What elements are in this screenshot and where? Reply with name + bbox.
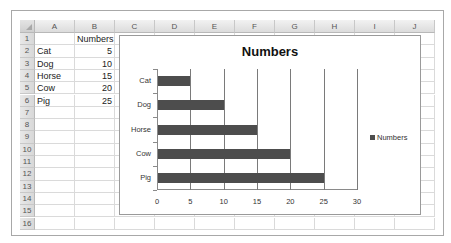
bar-cow[interactable] [158, 149, 290, 159]
row-header-2[interactable]: 2 [20, 45, 35, 57]
x-tick-label: 10 [214, 197, 234, 206]
y-tick [153, 142, 157, 143]
cell-b2[interactable]: 5 [75, 45, 115, 57]
cell-b14[interactable] [75, 193, 115, 205]
y-tick [153, 93, 157, 94]
bar-pig[interactable] [158, 173, 324, 183]
x-tick-label: 0 [147, 197, 167, 206]
row-header-14[interactable]: 14 [20, 193, 35, 205]
cell-b13[interactable] [75, 181, 115, 193]
bar-cat[interactable] [158, 76, 190, 86]
cell-b11[interactable] [75, 156, 115, 168]
y-tick [153, 69, 157, 70]
row-header-6[interactable]: 6 [20, 95, 35, 107]
x-tick-label: 20 [280, 197, 300, 206]
select-all-button[interactable] [20, 20, 35, 33]
cell-f16[interactable] [235, 218, 275, 230]
row-header-13[interactable]: 13 [20, 181, 35, 193]
cell-g16[interactable] [275, 218, 315, 230]
x-tick-label: 25 [314, 197, 334, 206]
bar-horse[interactable] [158, 125, 257, 135]
cell-d16[interactable] [155, 218, 195, 230]
row-header-4[interactable]: 4 [20, 70, 35, 82]
gridline [357, 69, 358, 190]
cell-b6[interactable]: 25 [75, 95, 115, 107]
row-header-8[interactable]: 8 [20, 119, 35, 131]
legend-swatch-icon [370, 135, 375, 140]
column-header-d[interactable]: D [155, 20, 195, 33]
cell-b15[interactable] [75, 205, 115, 217]
cell-a11[interactable] [35, 156, 75, 168]
cell-a9[interactable] [35, 131, 75, 143]
cell-b4[interactable]: 15 [75, 70, 115, 82]
cell-a1[interactable] [35, 33, 75, 45]
cell-a16[interactable] [35, 218, 75, 230]
x-tick-label: 15 [247, 197, 267, 206]
row-header-7[interactable]: 7 [20, 107, 35, 119]
cell-b1[interactable]: Numbers [75, 33, 115, 45]
cell-b3[interactable]: 10 [75, 58, 115, 70]
cell-a2[interactable]: Cat [35, 45, 75, 57]
cell-a7[interactable] [35, 107, 75, 119]
category-label-horse: Horse [111, 125, 151, 134]
category-label-cow: Cow [111, 149, 151, 158]
cell-a10[interactable] [35, 144, 75, 156]
y-tick [153, 117, 157, 118]
row-header-15[interactable]: 15 [20, 205, 35, 217]
y-tick [153, 166, 157, 167]
legend-label: Numbers [377, 133, 407, 142]
row-header-11[interactable]: 11 [20, 156, 35, 168]
cell-a13[interactable] [35, 181, 75, 193]
cell-a5[interactable]: Cow [35, 82, 75, 94]
bar-dog[interactable] [158, 100, 224, 110]
chart-legend: Numbers [370, 133, 407, 142]
column-header-h[interactable]: H [315, 20, 355, 33]
x-tick-label: 5 [180, 197, 200, 206]
row-header-9[interactable]: 9 [20, 131, 35, 143]
cell-i16[interactable] [355, 218, 395, 230]
column-header-g[interactable]: G [275, 20, 315, 33]
row-header-5[interactable]: 5 [20, 82, 35, 94]
bar-chart[interactable]: Numbers Numbers 051015202530CatDogHorseC… [119, 35, 421, 215]
column-header-c[interactable]: C [115, 20, 155, 33]
cell-b16[interactable] [75, 218, 115, 230]
column-header-b[interactable]: B [75, 20, 115, 33]
row-header-16[interactable]: 16 [20, 218, 35, 230]
cell-a8[interactable] [35, 119, 75, 131]
cell-b10[interactable] [75, 144, 115, 156]
gridline [290, 69, 291, 190]
y-tick [153, 190, 157, 191]
category-label-dog: Dog [111, 100, 151, 109]
gridline [257, 69, 258, 190]
chart-title: Numbers [120, 44, 420, 59]
cell-b8[interactable] [75, 119, 115, 131]
row-header-12[interactable]: 12 [20, 168, 35, 180]
cell-e16[interactable] [195, 218, 235, 230]
cell-a3[interactable]: Dog [35, 58, 75, 70]
plot-area [157, 69, 357, 190]
cell-h16[interactable] [315, 218, 355, 230]
row-header-10[interactable]: 10 [20, 144, 35, 156]
cell-j16[interactable] [395, 218, 435, 230]
cell-b12[interactable] [75, 168, 115, 180]
column-header-a[interactable]: A [35, 20, 75, 33]
row-header-3[interactable]: 3 [20, 58, 35, 70]
cell-a14[interactable] [35, 193, 75, 205]
gridline [324, 69, 325, 190]
cell-c16[interactable] [115, 218, 155, 230]
cell-b9[interactable] [75, 131, 115, 143]
row-header-1[interactable]: 1 [20, 33, 35, 45]
category-label-cat: Cat [111, 76, 151, 85]
cell-a6[interactable]: Pig [35, 95, 75, 107]
column-header-f[interactable]: F [235, 20, 275, 33]
cell-a4[interactable]: Horse [35, 70, 75, 82]
x-tick-label: 30 [347, 197, 367, 206]
cell-a15[interactable] [35, 205, 75, 217]
column-header-i[interactable]: I [355, 20, 395, 33]
cell-a12[interactable] [35, 168, 75, 180]
column-header-j[interactable]: J [395, 20, 435, 33]
cell-b7[interactable] [75, 107, 115, 119]
category-label-pig: Pig [111, 173, 151, 182]
cell-b5[interactable]: 20 [75, 82, 115, 94]
column-header-e[interactable]: E [195, 20, 235, 33]
